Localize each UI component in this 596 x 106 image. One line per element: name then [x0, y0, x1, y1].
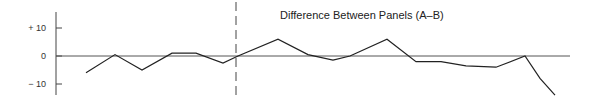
y-tick-label: 0: [41, 51, 46, 61]
y-tick-label: + 10: [28, 23, 46, 33]
difference-series-line: [86, 39, 555, 95]
y-tick-label: − 10: [28, 79, 46, 89]
chart-title: Difference Between Panels (A–B): [280, 9, 444, 21]
difference-chart: + 100− 10 Difference Between Panels (A–B…: [0, 0, 596, 106]
